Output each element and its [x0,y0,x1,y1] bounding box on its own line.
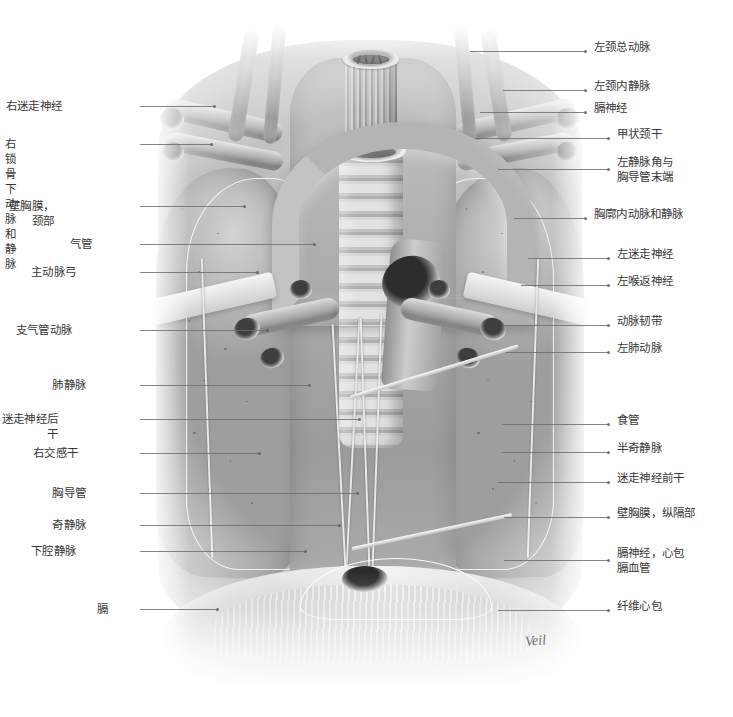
label-left-pulmonary-artery: 左肺动脉 [617,341,662,356]
label-parietal-pleura-cervical: 壁胸膜，颈部 [0,199,54,229]
label-left-venous-angle-duct-end: 左静脉角与 胸导管末端 [617,155,673,185]
label-bronchial-artery: 支气管动脉 [16,323,72,338]
label-hemiazygos-vein: 半奇静脉 [617,441,662,456]
label-ligamentum-arteriosum: 动脉韧带 [617,314,662,329]
label-diaphragm: 膈 [97,602,108,617]
label-internal-thoracic-vessels: 胸廓内动脉和静脉 [594,207,684,222]
label-layer: 右迷走神经右锁骨下动脉和静脉壁胸膜，颈部气管主动脉弓支气管动脉肺静脉迷走神经后干… [0,0,733,717]
label-azygos-vein: 奇静脉 [52,518,86,533]
label-right-vagus-nerve: 右迷走神经 [6,99,62,114]
label-inferior-vena-cava: 下腔静脉 [31,544,76,559]
figure-page: Veil 右迷走神经右锁骨下动脉和静脉壁胸膜，颈部气管主动脉弓支气管动脉肺静脉迷… [0,0,733,717]
label-right-sympathetic-trunk: 右交感干 [33,446,78,461]
label-parietal-pleura-mediastinal: 壁胸膜，纵隔部 [617,506,695,521]
label-fibrous-pericardium: 纤维心包 [617,599,662,614]
label-left-common-carotid-artery: 左颈总动脉 [594,40,650,55]
label-pulmonary-veins: 肺静脉 [52,378,86,393]
label-left-internal-jugular-vein: 左颈内静脉 [594,79,650,94]
label-esophagus: 食管 [617,413,639,428]
label-anterior-vagal-trunk: 迷走神经前干 [617,471,684,486]
label-aortic-arch: 主动脉弓 [31,265,76,280]
label-thyrocervical-trunk: 甲状颈干 [617,127,662,142]
label-left-recurrent-laryngeal-nerve: 左喉返神经 [617,274,673,289]
label-thoracic-duct: 胸导管 [52,486,86,501]
label-trachea: 气管 [70,237,92,252]
label-left-vagus-nerve: 左迷走神经 [617,247,673,262]
label-phrenic-nerve: 膈神经 [594,101,628,116]
label-phrenic-nerve-pericardiacophrenic: 膈神经，心包 膈血管 [617,546,684,576]
label-posterior-vagal-trunk: 迷走神经后干 [0,412,58,442]
